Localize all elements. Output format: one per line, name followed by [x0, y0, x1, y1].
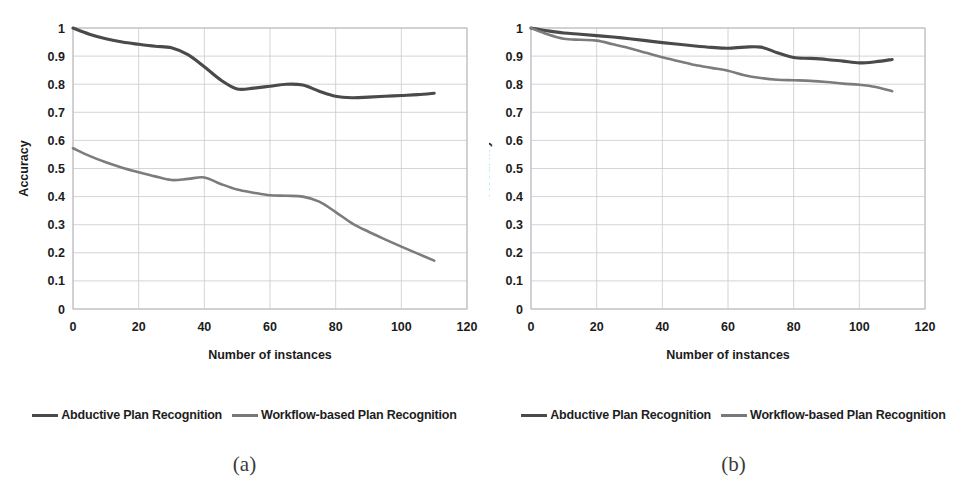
chart-a-ytick-8: 0.8 — [48, 78, 65, 92]
chart-a-ytick-2: 0.2 — [48, 246, 65, 260]
chart-a-ytick-4: 0.4 — [48, 190, 65, 204]
chart-b-ytick-0: 0 — [516, 303, 523, 317]
figure-container: 00.10.20.30.40.50.60.70.80.91 0204060801… — [0, 0, 978, 502]
chart-a-xtick-labels: 020406080100120 — [70, 320, 478, 334]
chart-b-ytick-1: 0.1 — [506, 274, 523, 288]
chart-b-ytick-3: 0.3 — [506, 218, 523, 232]
legend-label-abductive: Abductive Plan Recognition — [550, 408, 711, 422]
chart-b-xtick-5: 100 — [849, 320, 870, 334]
chart-a-xtick-5: 100 — [391, 320, 412, 334]
chart-a-ytick-7: 0.7 — [48, 106, 65, 120]
chart-a-series-workflow — [73, 148, 434, 260]
chart-a-x-axis-title: Number of instances — [208, 348, 332, 362]
chart-b-x-axis-title: Number of instances — [666, 348, 790, 362]
legend-line-swatch-light-icon — [721, 414, 747, 417]
chart-b-xtick-4: 80 — [787, 320, 801, 334]
chart-b-ytick-4: 0.4 — [506, 190, 523, 204]
legend-label-workflow: Workflow-based Plan Recognition — [750, 408, 946, 422]
chart-a-y-axis-title: Accuracy — [17, 140, 31, 196]
chart-b-legend: Abductive Plan Recognition Workflow-base… — [489, 408, 978, 422]
legend-item-workflow[interactable]: Workflow-based Plan Recognition — [232, 408, 457, 422]
panel-caption-b: (b) — [489, 452, 978, 477]
chart-b-ytick-8: 0.8 — [506, 78, 523, 92]
chart-b-xtick-6: 120 — [915, 320, 936, 334]
legend-label-workflow: Workflow-based Plan Recognition — [261, 408, 457, 422]
chart-a-plot: 00.10.20.30.40.50.60.70.80.91 0204060801… — [0, 0, 489, 372]
chart-b-ytick-9: 0.9 — [506, 50, 523, 64]
legend-label-abductive: Abductive Plan Recognition — [61, 408, 222, 422]
chart-a-xtick-2: 40 — [197, 320, 211, 334]
chart-b-xtick-0: 0 — [528, 320, 535, 334]
chart-a-ytick-1: 0.1 — [48, 274, 65, 288]
chart-panel-a: 00.10.20.30.40.50.60.70.80.91 0204060801… — [0, 0, 489, 502]
chart-a-svg: 00.10.20.30.40.50.60.70.80.91 0204060801… — [0, 0, 489, 372]
legend-line-swatch-dark-icon — [32, 414, 58, 417]
chart-panel-b: 00.10.20.30.40.50.60.70.80.91 0204060801… — [489, 0, 978, 502]
chart-b-ytick-labels: 00.10.20.30.40.50.60.70.80.91 — [506, 22, 523, 317]
chart-a-ytick-3: 0.3 — [48, 218, 65, 232]
chart-a-xtick-1: 20 — [132, 320, 146, 334]
legend-line-swatch-dark-icon — [521, 414, 547, 417]
chart-b-ytick-2: 0.2 — [506, 246, 523, 260]
chart-a-xtick-4: 80 — [329, 320, 343, 334]
chart-a-ytick-5: 0.5 — [48, 162, 65, 176]
chart-b-svg: 00.10.20.30.40.50.60.70.80.91 0204060801… — [489, 0, 978, 372]
legend-item-abductive[interactable]: Abductive Plan Recognition — [521, 408, 711, 422]
chart-a-xtick-6: 120 — [457, 320, 478, 334]
legend-item-workflow[interactable]: Workflow-based Plan Recognition — [721, 408, 946, 422]
chart-b-y-axis-title: Accuracy — [489, 140, 492, 196]
legend-line-swatch-light-icon — [232, 414, 258, 417]
chart-b-ytick-5: 0.5 — [506, 162, 523, 176]
chart-b-xtick-3: 60 — [721, 320, 735, 334]
chart-a-gridlines — [73, 28, 467, 309]
chart-a-ytick-9: 0.9 — [48, 50, 65, 64]
chart-b-series — [531, 28, 892, 91]
chart-a-ytick-10: 1 — [58, 22, 65, 36]
chart-b-xtick-labels: 020406080100120 — [528, 320, 936, 334]
chart-a-ytick-6: 0.6 — [48, 134, 65, 148]
chart-a-xtick-3: 60 — [263, 320, 277, 334]
panel-caption-a: (a) — [0, 452, 489, 477]
chart-b-plot: 00.10.20.30.40.50.60.70.80.91 0204060801… — [489, 0, 978, 372]
chart-b-xtick-2: 40 — [655, 320, 669, 334]
chart-b-series-abductive — [531, 28, 892, 63]
legend-item-abductive[interactable]: Abductive Plan Recognition — [32, 408, 222, 422]
chart-a-legend: Abductive Plan Recognition Workflow-base… — [0, 408, 489, 422]
chart-b-xtick-1: 20 — [590, 320, 604, 334]
chart-a-xtick-0: 0 — [70, 320, 77, 334]
chart-a-ytick-0: 0 — [58, 303, 65, 317]
chart-b-ytick-6: 0.6 — [506, 134, 523, 148]
chart-b-ytick-10: 1 — [516, 22, 523, 36]
chart-a-series — [73, 28, 434, 261]
chart-a-ytick-labels: 00.10.20.30.40.50.60.70.80.91 — [48, 22, 65, 317]
chart-b-ytick-7: 0.7 — [506, 106, 523, 120]
chart-a-series-abductive — [73, 28, 434, 98]
